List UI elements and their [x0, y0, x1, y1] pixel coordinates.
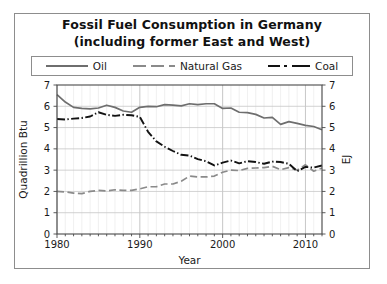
chart-figure: Fossil Fuel Consumption in Germany (incl… [0, 0, 387, 284]
chart-title-line-2: (including former East and West) [14, 33, 370, 50]
legend-item-oil[interactable]: Oil [46, 60, 107, 72]
legend-label-coal: Coal [315, 60, 338, 72]
line-dashdot-icon [268, 61, 310, 71]
legend-label-natural-gas: Natural Gas [180, 60, 242, 72]
chart-legend: Oil Natural Gas Coal [31, 56, 353, 76]
legend-item-natural-gas[interactable]: Natural Gas [133, 60, 242, 72]
line-dashed-icon [133, 61, 175, 71]
legend-item-coal[interactable]: Coal [268, 60, 338, 72]
chart-title-line-1: Fossil Fuel Consumption in Germany [14, 16, 370, 33]
figure-border [14, 13, 370, 269]
legend-label-oil: Oil [93, 60, 107, 72]
chart-title: Fossil Fuel Consumption in Germany (incl… [14, 16, 370, 50]
line-solid-icon [46, 61, 88, 71]
